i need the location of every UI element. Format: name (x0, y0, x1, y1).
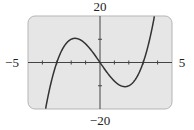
x-max-label: 5 (179, 55, 186, 70)
y-max-label: 20 (94, 0, 107, 14)
cubic-graph: 20 −20 −5 5 (0, 0, 194, 130)
y-min-label: −20 (90, 113, 110, 128)
x-min-label: −5 (5, 55, 19, 70)
